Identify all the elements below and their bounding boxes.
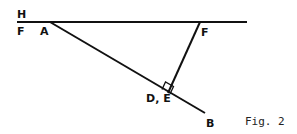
segment-ab	[50, 22, 205, 113]
label-h: H	[17, 8, 26, 21]
label-b: B	[206, 117, 214, 130]
geometry-diagram: H F A F D, E B Fig. 2	[0, 0, 297, 134]
label-f-right: F	[201, 26, 209, 39]
segment-f-de	[168, 22, 200, 93]
label-de: D, E	[146, 92, 171, 105]
label-a: A	[40, 25, 49, 38]
label-f-left: F	[17, 25, 25, 38]
figure-caption: Fig. 2	[245, 115, 285, 128]
